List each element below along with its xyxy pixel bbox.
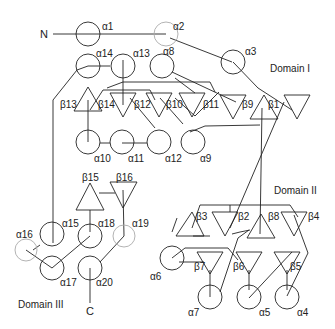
connections bbox=[26, 34, 308, 303]
label-a16: α16 bbox=[16, 229, 33, 240]
label-a8: α8 bbox=[163, 46, 175, 57]
helix-a8 bbox=[150, 54, 174, 78]
label-b6: β6 bbox=[233, 261, 245, 272]
strands bbox=[74, 87, 310, 274]
label-b1: β1 bbox=[268, 99, 280, 110]
label-b12: β12 bbox=[134, 99, 151, 110]
label-a4: α4 bbox=[297, 307, 309, 318]
label-a17: α17 bbox=[60, 277, 77, 288]
label-a11: α11 bbox=[128, 153, 145, 164]
label-a7: α7 bbox=[188, 307, 200, 318]
label-a13: α13 bbox=[133, 48, 150, 59]
helix-a12 bbox=[147, 130, 171, 154]
label-a3: α3 bbox=[245, 46, 257, 57]
label-a12: α12 bbox=[165, 153, 182, 164]
label-b5: β5 bbox=[290, 261, 302, 272]
label-b10: β10 bbox=[166, 99, 183, 110]
label-a20: α20 bbox=[96, 277, 113, 288]
label-a19: α19 bbox=[132, 218, 149, 229]
c-terminus-label: C bbox=[86, 305, 94, 317]
label-a6: α6 bbox=[150, 271, 162, 282]
label-a5: α5 bbox=[259, 307, 271, 318]
helix-a15 bbox=[40, 222, 64, 246]
label-a9: α9 bbox=[200, 153, 212, 164]
label-a1: α1 bbox=[102, 21, 114, 32]
topology-diagram: N C Domain I Domain II Domain III α1 α2 … bbox=[0, 0, 335, 329]
label-b2: β2 bbox=[238, 211, 250, 222]
label-b15: β15 bbox=[82, 172, 99, 183]
label-b16: β16 bbox=[116, 172, 133, 183]
helix-a9 bbox=[181, 130, 205, 154]
helix-labels: α1 α2 α3 α4 α5 α6 α7 α8 α9 α10 α11 α12 α… bbox=[16, 21, 309, 318]
label-b7: β7 bbox=[194, 261, 206, 272]
label-b9: β9 bbox=[242, 99, 254, 110]
label-a15: α15 bbox=[62, 218, 79, 229]
label-b8: β8 bbox=[268, 211, 280, 222]
label-a14: α14 bbox=[96, 48, 113, 59]
strand-b15 bbox=[76, 183, 104, 210]
label-b13: β13 bbox=[60, 99, 77, 110]
domain-label-1: Domain I bbox=[270, 63, 310, 74]
n-terminus-label: N bbox=[40, 28, 48, 40]
domain-label-3: Domain III bbox=[18, 299, 64, 310]
label-a2: α2 bbox=[173, 21, 185, 32]
helix-a11 bbox=[110, 130, 134, 154]
strand-b2 bbox=[212, 212, 238, 236]
label-b3: β3 bbox=[196, 211, 208, 222]
label-a18: α18 bbox=[98, 218, 115, 229]
domain-label-2: Domain II bbox=[274, 185, 317, 196]
label-b14: β14 bbox=[98, 99, 115, 110]
label-a10: α10 bbox=[94, 153, 111, 164]
label-b4: β4 bbox=[308, 211, 320, 222]
label-b11: β11 bbox=[203, 99, 220, 110]
